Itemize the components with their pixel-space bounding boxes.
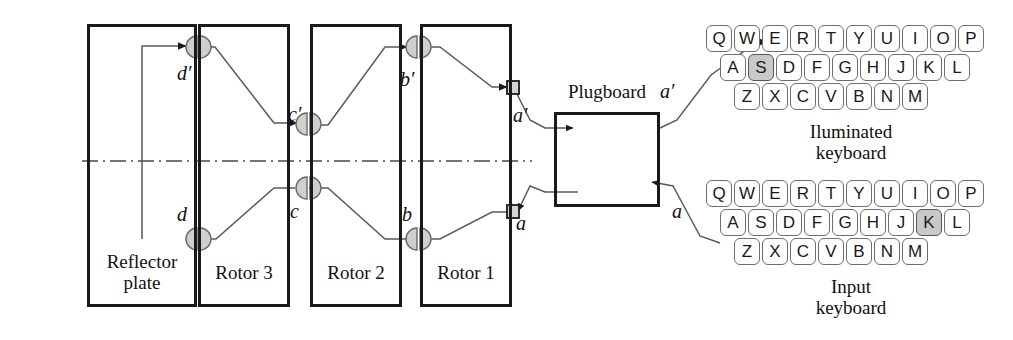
keyboard-row: ZXCVBNM	[706, 83, 996, 110]
label-a-plugboard: a	[672, 200, 682, 223]
key-x[interactable]: X	[762, 83, 788, 110]
key-b[interactable]: B	[846, 83, 872, 110]
key-x[interactable]: X	[762, 238, 788, 265]
rotor-1-label: Rotor 1	[420, 263, 512, 284]
key-t[interactable]: T	[818, 180, 844, 207]
key-z[interactable]: Z	[734, 83, 760, 110]
key-q[interactable]: Q	[706, 25, 732, 52]
label-c-prime: c′	[288, 103, 301, 126]
key-l[interactable]: L	[944, 209, 970, 236]
key-d[interactable]: D	[776, 209, 802, 236]
key-j[interactable]: J	[888, 54, 914, 81]
keyboard-row: QWERTYUIOP	[706, 180, 996, 207]
key-g[interactable]: G	[832, 54, 858, 81]
label-b: b	[402, 203, 412, 226]
key-i[interactable]: I	[902, 25, 928, 52]
key-n[interactable]: N	[874, 83, 900, 110]
input-keyboard: QWERTYUIOP ASDFGHJKL ZXCVBNM Input keybo…	[706, 180, 996, 267]
key-h[interactable]: H	[860, 209, 886, 236]
key-k[interactable]: K	[916, 54, 942, 81]
enigma-diagram: Reflector plate Rotor 3 Rotor 2 Rotor 1 …	[0, 0, 1013, 340]
illuminated-keyboard: QWERTYUIOP ASDFGHJKL ZXCVBNM Iluminated …	[706, 25, 996, 112]
keyboard-row: ASDFGHJKL	[706, 54, 996, 81]
key-u[interactable]: U	[874, 25, 900, 52]
key-r[interactable]: R	[790, 25, 816, 52]
reflector-plate-label: Reflector plate	[87, 252, 197, 293]
key-q[interactable]: Q	[706, 180, 732, 207]
label-d: d	[177, 203, 187, 226]
label-a-prime-plugboard: a′	[660, 80, 674, 103]
keyboard-row: ZXCVBNM	[706, 238, 996, 265]
key-g[interactable]: G	[832, 209, 858, 236]
key-j[interactable]: J	[888, 209, 914, 236]
key-f[interactable]: F	[804, 54, 830, 81]
key-r[interactable]: R	[790, 180, 816, 207]
key-m[interactable]: M	[902, 83, 928, 110]
key-l[interactable]: L	[944, 54, 970, 81]
key-v[interactable]: V	[818, 83, 844, 110]
key-s[interactable]: S	[748, 209, 774, 236]
key-p[interactable]: P	[958, 25, 984, 52]
keyboard-row: ASDFGHJKL	[706, 209, 996, 236]
plugboard-box	[554, 112, 660, 207]
key-d[interactable]: D	[776, 54, 802, 81]
key-t[interactable]: T	[818, 25, 844, 52]
label-a-rotor: a	[516, 212, 526, 235]
key-f[interactable]: F	[804, 209, 830, 236]
input-keyboard-caption: Input keyboard	[706, 276, 996, 319]
key-w[interactable]: W	[734, 180, 760, 207]
key-m[interactable]: M	[902, 238, 928, 265]
illuminated-keyboard-caption: Iluminated keyboard	[706, 121, 996, 164]
key-n[interactable]: N	[874, 238, 900, 265]
label-c: c	[290, 200, 299, 223]
rotor-3-label: Rotor 3	[198, 263, 290, 284]
keyboard-row: QWERTYUIOP	[706, 25, 996, 52]
key-i[interactable]: I	[902, 180, 928, 207]
key-h[interactable]: H	[860, 54, 886, 81]
key-e[interactable]: E	[762, 180, 788, 207]
key-o[interactable]: O	[930, 25, 956, 52]
key-v[interactable]: V	[818, 238, 844, 265]
label-a-prime-rotor: a′	[513, 104, 527, 127]
key-u[interactable]: U	[874, 180, 900, 207]
key-y[interactable]: Y	[846, 25, 872, 52]
key-z[interactable]: Z	[734, 238, 760, 265]
rotor-2-label: Rotor 2	[310, 263, 402, 284]
key-k[interactable]: K	[916, 209, 942, 236]
key-a[interactable]: A	[720, 54, 746, 81]
plugboard-label: Plugboard	[542, 82, 672, 103]
key-a[interactable]: A	[720, 209, 746, 236]
key-b[interactable]: B	[846, 238, 872, 265]
key-w[interactable]: W	[734, 25, 760, 52]
wire-a-into-rotor1	[518, 186, 554, 211]
key-e[interactable]: E	[762, 25, 788, 52]
key-c[interactable]: C	[790, 83, 816, 110]
key-o[interactable]: O	[930, 180, 956, 207]
key-y[interactable]: Y	[846, 180, 872, 207]
key-p[interactable]: P	[958, 180, 984, 207]
label-b-prime: b′	[400, 68, 414, 91]
label-d-prime: d′	[177, 62, 191, 85]
key-s[interactable]: S	[748, 54, 774, 81]
key-c[interactable]: C	[790, 238, 816, 265]
